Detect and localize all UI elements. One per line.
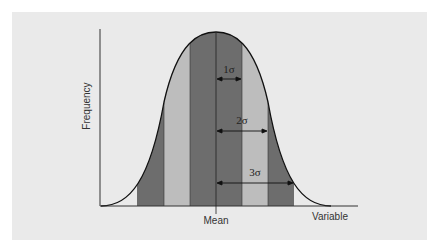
y-axis-label: Frequency [81, 82, 92, 129]
label-3sigma: 3σ [249, 166, 261, 178]
x-axis-label: Variable [312, 211, 348, 222]
band-minus-1sigma [190, 20, 216, 206]
label-2sigma: 2σ [236, 114, 248, 126]
mean-label: Mean [203, 215, 228, 226]
normal-distribution-diagram: 1σ 2σ 3σ Mean Variable Frequency [0, 0, 437, 252]
band-plus-1sigma [216, 20, 242, 206]
label-1sigma: 1σ [223, 63, 235, 75]
